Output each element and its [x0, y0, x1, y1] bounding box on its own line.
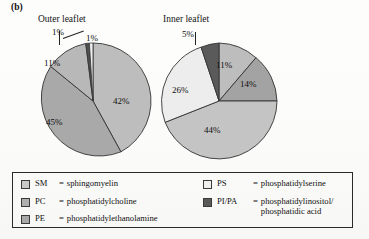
- legend-name-pc: phosphatidylcholine: [67, 196, 137, 207]
- legend-equals-ps: =: [253, 178, 258, 188]
- legend-name-sm: sphingomyelin: [67, 178, 118, 189]
- legend-swatch-pipa-icon: [203, 198, 212, 207]
- pie-label-outer-1-left: 1%: [52, 27, 64, 37]
- pie-label-outer-45: 45%: [46, 117, 63, 127]
- pie-label-outer-11: 11%: [44, 58, 60, 68]
- legend-equals-pe: =: [59, 213, 64, 223]
- legend-equals-pc: =: [59, 196, 64, 206]
- legend-swatch-pe-icon: [21, 215, 30, 224]
- legend-name-pipa: phosphatidylinositol/ phosphatidic acid: [261, 196, 353, 217]
- legend-name-pe: phosphatidylethanolamine: [67, 213, 158, 224]
- legend-abbr-pc: PC: [35, 196, 57, 206]
- legend-item-pc: PC = phosphatidylcholine: [21, 196, 199, 210]
- legend-equals-pipa: =: [253, 196, 258, 206]
- pie-label-outer-42: 42%: [113, 96, 130, 106]
- pie-label-outer-1-right: 1%: [86, 33, 98, 43]
- legend-item-ps: PS = phosphatidylserine: [203, 178, 353, 192]
- panel-label: (b): [11, 2, 23, 12]
- legend-column-left: SM = sphingomyelin PC = phosphatidylchol…: [21, 178, 199, 231]
- legend-column-right: PS = phosphatidylserine PI/PA = phosphat…: [203, 178, 353, 221]
- legend-swatch-ps-icon: [203, 180, 212, 189]
- legend-abbr-sm: SM: [35, 178, 57, 188]
- legend-abbr-ps: PS: [217, 178, 251, 188]
- legend-abbr-pe: PE: [35, 213, 57, 223]
- pie-label-inner-5: 5%: [182, 29, 194, 39]
- legend-swatch-pc-icon: [21, 198, 30, 207]
- leader-line-outer-1pct-right: [63, 31, 84, 39]
- legend-item-sm: SM = sphingomyelin: [21, 178, 199, 192]
- pie-chart-inner-leaflet: [158, 40, 280, 162]
- legend-item-pe: PE = phosphatidylethanolamine: [21, 213, 199, 227]
- legend-box: SM = sphingomyelin PC = phosphatidylchol…: [12, 172, 353, 228]
- legend-abbr-pipa: PI/PA: [217, 196, 251, 206]
- pie-label-inner-14: 14%: [240, 79, 257, 89]
- legend-equals-sm: =: [59, 178, 64, 188]
- legend-item-pipa: PI/PA = phosphatidylinositol/ phosphatid…: [203, 196, 353, 218]
- legend-name-ps: phosphatidylserine: [261, 178, 326, 189]
- pie-label-inner-26: 26%: [172, 85, 189, 95]
- chart-title-inner: Inner leaflet: [163, 14, 209, 24]
- pie-inner-svg: [158, 40, 280, 162]
- legend-swatch-sm-icon: [21, 180, 30, 189]
- pie-label-inner-11: 11%: [216, 60, 232, 70]
- chart-title-outer: Outer leaflet: [38, 14, 86, 24]
- leader-line-inner-5pct: [195, 32, 196, 45]
- pie-label-inner-44: 44%: [204, 125, 221, 135]
